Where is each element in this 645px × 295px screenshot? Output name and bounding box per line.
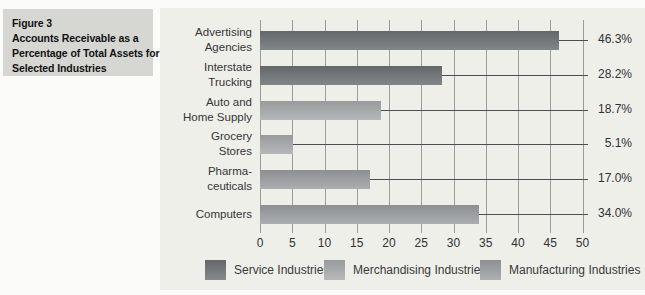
bar [260,205,479,224]
x-tick-label: 35 [479,236,492,250]
value-label: 28.2% [598,67,632,81]
bar [260,135,293,154]
bar [260,101,381,120]
leader-line [442,75,588,76]
gridline [550,20,551,233]
gridline [421,20,422,233]
x-tick-label: 20 [382,236,395,250]
value-label: 34.0% [598,206,632,220]
gridline [325,20,326,233]
x-tick-label: 40 [511,236,524,250]
gridline [357,20,358,233]
legend: Service IndustriesMerchandising Industri… [160,260,645,282]
gridline [292,20,293,233]
legend-label: Manufacturing Industries [509,263,640,277]
value-label: 46.3% [598,32,632,46]
leader-line [370,179,588,180]
leader-line [381,110,588,111]
category-label: Auto andHome Supply [156,95,252,125]
legend-item: Merchandising Industries [324,260,486,280]
value-label: 5.1% [605,136,632,150]
figure-caption-line: Selected Industries [12,61,149,76]
leader-line [559,40,588,41]
gridline [583,20,584,233]
category-label: GroceryStores [156,129,252,159]
gridline [486,20,487,233]
leader-line [293,144,588,145]
x-tick-label: 10 [318,236,331,250]
gridline [389,20,390,233]
leader-line [479,214,588,215]
bar [260,66,442,85]
gridline [260,20,261,233]
value-label: 18.7% [598,102,632,116]
page: { "figure_caption": { "lines": [ "Figure… [0,0,645,295]
x-tick-label: 45 [544,236,557,250]
bar [260,31,559,50]
category-label: Computers [156,207,252,222]
category-label: InterstateTrucking [156,60,252,90]
category-label: AdvertisingAgencies [156,25,252,55]
x-tick-label: 25 [415,236,428,250]
legend-label: Merchandising Industries [353,263,486,277]
figure-caption-line: Accounts Receivable as a [12,31,149,46]
legend-item: Service Industries [205,260,329,280]
x-tick-label: 50 [576,236,589,250]
x-tick-label: 30 [447,236,460,250]
bar [260,170,370,189]
gridline [454,20,455,233]
legend-label: Service Industries [234,263,329,277]
figure-caption-line: Figure 3 [12,16,149,31]
legend-swatch [480,260,501,280]
x-tick-label: 15 [350,236,363,250]
legend-swatch [324,260,345,280]
legend-swatch [205,260,226,280]
x-tick-label: 5 [289,236,296,250]
value-label: 17.0% [598,171,632,185]
figure-caption-block: Figure 3 Accounts Receivable as a Percen… [3,9,153,76]
legend-item: Manufacturing Industries [480,260,640,280]
gridline [518,20,519,233]
category-label: Pharma-ceuticals [156,164,252,194]
figure-caption-line: Percentage of Total Assets for [12,46,149,61]
x-tick-label: 0 [257,236,264,250]
plot-area: 05101520253035404550AdvertisingAgencies4… [160,8,645,290]
chart-panel: 05101520253035404550AdvertisingAgencies4… [160,8,645,290]
